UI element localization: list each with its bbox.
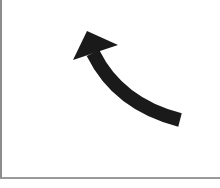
curved-arrow-up-left-icon: [0, 0, 220, 188]
arrow-shaft: [93, 53, 180, 120]
